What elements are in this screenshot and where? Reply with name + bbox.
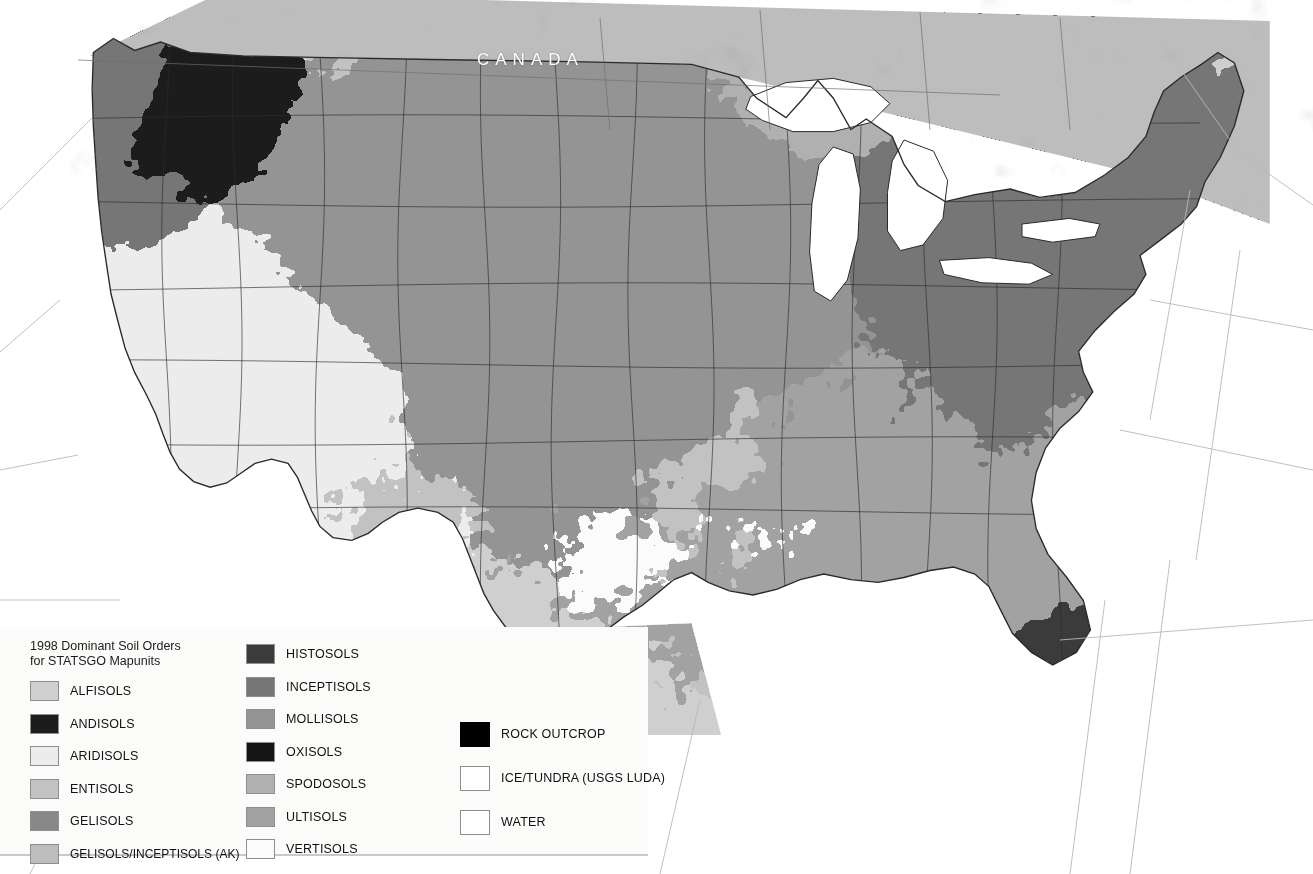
legend-swatch-oxisols bbox=[246, 742, 275, 762]
legend-item-ice-tundra[interactable]: ICE/TUNDRA (USGS LUDA) bbox=[460, 756, 665, 800]
legend-swatch-ice-tundra bbox=[460, 766, 490, 791]
legend-title: 1998 Dominant Soil Orders for STATSGO Ma… bbox=[30, 639, 235, 669]
legend-item-rock-outcrop[interactable]: ROCK OUTCROP bbox=[460, 712, 665, 756]
legend-title-text-line2: for STATSGO Mapunits bbox=[30, 654, 160, 668]
legend-item-water[interactable]: WATER bbox=[460, 800, 665, 844]
legend-label-vertisols: VERTISOLS bbox=[286, 842, 358, 856]
legend-item-entisols[interactable]: ENTISOLS bbox=[30, 773, 239, 806]
legend-item-gelisols-inceptisols-ak[interactable]: GELISOLS/INCEPTISOLS (AK) bbox=[30, 838, 239, 871]
legend-label-andisols: ANDISOLS bbox=[70, 717, 135, 731]
legend-swatch-entisols bbox=[30, 779, 59, 799]
legend-item-inceptisols[interactable]: INCEPTISOLS bbox=[246, 671, 371, 704]
legend-swatch-inceptisols bbox=[246, 677, 275, 697]
legend-label-gelisols: GELISOLS bbox=[70, 814, 133, 828]
map-legend: 1998 Dominant Soil Orders for STATSGO Ma… bbox=[0, 627, 648, 856]
legend-label-aridisols: ARIDISOLS bbox=[70, 749, 139, 763]
legend-swatch-alfisols bbox=[30, 681, 59, 701]
legend-label-inceptisols: INCEPTISOLS bbox=[286, 680, 371, 694]
legend-item-gelisols[interactable]: GELISOLS bbox=[30, 805, 239, 838]
legend-label-spodosols: SPODOSOLS bbox=[286, 777, 366, 791]
legend-label-water: WATER bbox=[501, 815, 546, 829]
legend-swatch-histosols bbox=[246, 644, 275, 664]
legend-swatch-vertisols bbox=[246, 839, 275, 859]
legend-swatch-rock-outcrop bbox=[460, 722, 490, 747]
legend-title-text-line1: 1998 Dominant Soil Orders bbox=[30, 639, 181, 653]
legend-item-aridisols[interactable]: ARIDISOLS bbox=[30, 740, 239, 773]
legend-column-c: ROCK OUTCROP ICE/TUNDRA (USGS LUDA) WATE… bbox=[460, 712, 665, 844]
legend-column-b: HISTOSOLS INCEPTISOLS MOLLISOLS OXISOLS … bbox=[246, 638, 371, 866]
legend-item-ultisols[interactable]: ULTISOLS bbox=[246, 801, 371, 834]
legend-label-alfisols: ALFISOLS bbox=[70, 684, 131, 698]
legend-label-gelisols-inceptisols-ak: GELISOLS/INCEPTISOLS (AK) bbox=[70, 847, 239, 861]
legend-item-oxisols[interactable]: OXISOLS bbox=[246, 736, 371, 769]
legend-item-vertisols[interactable]: VERTISOLS bbox=[246, 833, 371, 866]
legend-swatch-andisols bbox=[30, 714, 59, 734]
legend-swatch-spodosols bbox=[246, 774, 275, 794]
legend-item-mollisols[interactable]: MOLLISOLS bbox=[246, 703, 371, 736]
legend-swatch-mollisols bbox=[246, 709, 275, 729]
map-figure: CANADA MEXICO 1998 Dominant Soil Orders … bbox=[0, 0, 1313, 874]
legend-column-a: ALFISOLS ANDISOLS ARIDISOLS ENTISOLS GEL… bbox=[30, 675, 239, 870]
legend-label-histosols: HISTOSOLS bbox=[286, 647, 359, 661]
legend-item-spodosols[interactable]: SPODOSOLS bbox=[246, 768, 371, 801]
legend-label-mollisols: MOLLISOLS bbox=[286, 712, 359, 726]
legend-item-alfisols[interactable]: ALFISOLS bbox=[30, 675, 239, 708]
legend-swatch-ultisols bbox=[246, 807, 275, 827]
legend-label-ice-tundra: ICE/TUNDRA (USGS LUDA) bbox=[501, 771, 665, 785]
legend-label-oxisols: OXISOLS bbox=[286, 745, 342, 759]
legend-label-ultisols: ULTISOLS bbox=[286, 810, 347, 824]
legend-swatch-gelisols-inceptisols-ak bbox=[30, 844, 59, 864]
legend-label-rock-outcrop: ROCK OUTCROP bbox=[501, 727, 606, 741]
legend-item-histosols[interactable]: HISTOSOLS bbox=[246, 638, 371, 671]
legend-label-entisols: ENTISOLS bbox=[70, 782, 133, 796]
legend-swatch-water bbox=[460, 810, 490, 835]
legend-swatch-gelisols bbox=[30, 811, 59, 831]
legend-item-andisols[interactable]: ANDISOLS bbox=[30, 708, 239, 741]
legend-swatch-aridisols bbox=[30, 746, 59, 766]
